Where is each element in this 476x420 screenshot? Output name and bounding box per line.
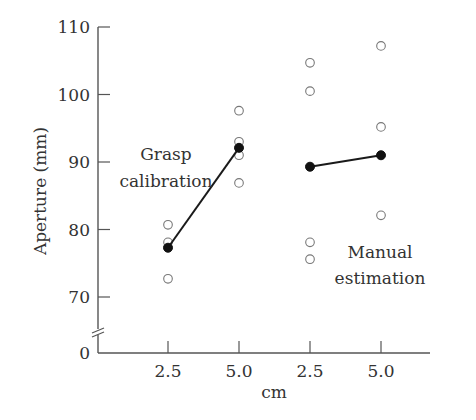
y-tick-label: 100 (58, 85, 90, 105)
x-axis-title: cm (261, 382, 287, 402)
individual-point (306, 238, 315, 247)
x-axis: 2.55.02.55.0 (98, 341, 430, 381)
individual-point (164, 220, 173, 229)
individual-point (235, 106, 244, 115)
individual-point (306, 87, 315, 96)
series-annotation: estimation (335, 268, 426, 288)
series-annotation: Manual (347, 242, 412, 262)
y-tick-label: 80 (68, 220, 90, 240)
individual-point (306, 58, 315, 67)
series-annotation: Grasp (140, 144, 192, 164)
individual-point (306, 255, 315, 264)
individual-point (377, 123, 386, 132)
x-tick-label: 5.0 (367, 361, 394, 381)
y-axis-title: Aperture (mm) (30, 127, 50, 256)
individual-point (235, 179, 244, 188)
series-manual-estimation (306, 42, 386, 264)
x-tick-label: 2.5 (154, 361, 181, 381)
y-axis: 0708090100110 (58, 17, 110, 363)
mean-point (235, 143, 244, 152)
mean-line (310, 155, 381, 166)
individual-point (164, 274, 173, 283)
mean-point (164, 243, 173, 252)
y-tick-label: 70 (68, 287, 90, 307)
series-annotation: calibration (119, 171, 212, 191)
mean-point (306, 162, 315, 171)
y-tick-label: 0 (79, 343, 90, 363)
mean-point (377, 151, 386, 160)
series-grasp-calibration (164, 106, 244, 283)
individual-point (377, 211, 386, 220)
individual-point (377, 42, 386, 51)
y-tick-label: 90 (68, 152, 90, 172)
x-tick-label: 5.0 (225, 361, 252, 381)
chart: 0708090100110 2.55.02.55.0 Aperture (mm)… (0, 0, 476, 420)
y-tick-label: 110 (58, 17, 90, 37)
x-tick-label: 2.5 (296, 361, 323, 381)
